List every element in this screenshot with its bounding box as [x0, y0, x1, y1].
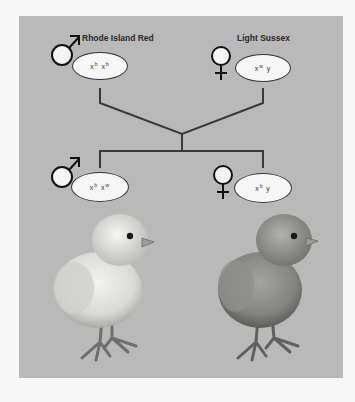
pale-chick-illustration	[40, 210, 160, 370]
female-offspring-genotype: xb y	[255, 183, 271, 192]
dark-chick-illustration	[210, 210, 330, 370]
female-offspring-genotype-oval: xb y	[234, 173, 292, 203]
mother-genotype-oval: xw y	[235, 54, 291, 82]
male-offspring-genotype-oval: xb xw	[71, 172, 129, 202]
female-symbol-icon	[211, 163, 237, 201]
father-genotype: xb xb	[90, 61, 110, 70]
male-offspring-genotype: xb xw	[90, 182, 110, 191]
father-genotype-oval: xb xb	[72, 52, 128, 80]
mother-breed-label: Light Sussex	[237, 33, 290, 43]
mother-genotype: xw y	[255, 63, 272, 72]
father-breed-label: Rhode Island Red	[82, 33, 154, 43]
female-symbol-icon	[209, 44, 235, 82]
